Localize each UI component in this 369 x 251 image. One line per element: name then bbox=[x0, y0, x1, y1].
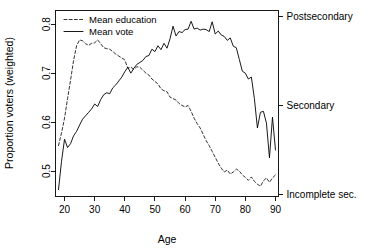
right-tick-label: Secondary bbox=[287, 100, 335, 111]
series-line-mean-education bbox=[59, 40, 276, 186]
chart-legend: Mean education Mean vote bbox=[64, 14, 157, 37]
x-tick-label: 70 bbox=[210, 204, 222, 215]
x-tick-label: 80 bbox=[240, 204, 252, 215]
voting-education-by-age-chart: 2030405060708090 0.50.60.70.8 Postsecond… bbox=[0, 0, 369, 251]
right-tick-label: Postsecondary bbox=[287, 11, 353, 22]
y-tick-label: 0.8 bbox=[41, 17, 52, 31]
series-group bbox=[59, 21, 276, 189]
x-tick-label: 40 bbox=[119, 204, 131, 215]
x-tick-label: 50 bbox=[149, 204, 161, 215]
right-axis-ticks: PostsecondarySecondaryIncomplete sec. bbox=[279, 11, 357, 200]
legend-label-mean-vote: Mean vote bbox=[89, 26, 133, 37]
legend-label-mean-education: Mean education bbox=[89, 14, 157, 25]
x-axis-ticks: 2030405060708090 bbox=[59, 197, 282, 215]
right-tick-label: Incomplete sec. bbox=[287, 189, 357, 200]
plot-frame bbox=[56, 11, 279, 197]
y-tick-label: 0.6 bbox=[41, 115, 52, 129]
y-axis-ticks: 0.50.60.70.8 bbox=[41, 17, 56, 178]
y-axis-title: Proportion voters (weighted) bbox=[3, 37, 15, 169]
series-line-mean-vote bbox=[59, 21, 276, 189]
y-tick-label: 0.7 bbox=[41, 66, 52, 80]
x-tick-label: 90 bbox=[270, 204, 282, 215]
x-axis-title: Age bbox=[158, 233, 177, 245]
x-tick-label: 20 bbox=[59, 204, 71, 215]
y-tick-label: 0.5 bbox=[41, 164, 52, 178]
x-tick-label: 30 bbox=[89, 204, 101, 215]
x-tick-label: 60 bbox=[180, 204, 192, 215]
chart-container: 2030405060708090 0.50.60.70.8 Postsecond… bbox=[0, 0, 369, 251]
